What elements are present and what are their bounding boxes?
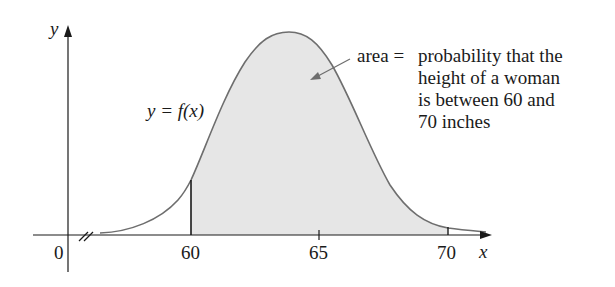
x-tick-label-60: 60 xyxy=(181,243,200,263)
annotation-line-3: is between 60 and xyxy=(418,89,563,111)
annotation-line-2: height of a woman xyxy=(418,67,563,89)
x-axis-arrow-icon xyxy=(480,231,492,239)
axis-break-icon-2 xyxy=(84,232,93,241)
annotation-line-4: 70 inches xyxy=(418,111,563,133)
x-tick-label-70: 70 xyxy=(437,243,456,263)
x-axis-label: x xyxy=(479,242,487,262)
y-axis-arrow-icon xyxy=(64,25,72,37)
annotation-text: probability that the height of a woman i… xyxy=(418,45,563,133)
normal-distribution-figure: y x 0 60 65 70 y = f(x) area = probabili… xyxy=(0,0,615,287)
x-tick-label-65: 65 xyxy=(309,243,328,263)
axis-break-icon xyxy=(79,232,88,241)
y-axis-label: y xyxy=(50,19,58,39)
origin-label: 0 xyxy=(54,243,64,263)
plot-svg xyxy=(0,0,615,287)
curve-label: y = f(x) xyxy=(147,101,204,121)
shaded-area xyxy=(191,32,448,235)
annotation-prefix: area = xyxy=(357,46,404,66)
annotation-line-1: probability that the xyxy=(418,45,563,67)
